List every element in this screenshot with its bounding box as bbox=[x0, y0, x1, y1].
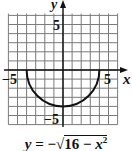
y-axis bbox=[60, 0, 66, 127]
x-tick-neg5: −5 bbox=[2, 72, 17, 87]
x-tick-5: 5 bbox=[104, 72, 111, 87]
equation-caption: y = −√16 − x2 bbox=[0, 129, 132, 151]
y-axis-arrow-icon bbox=[60, 0, 66, 8]
sqrt-icon: √ bbox=[56, 136, 64, 151]
x-axis-label: x bbox=[122, 71, 131, 87]
y-tick-neg5: −5 bbox=[44, 112, 59, 127]
graph: x y −5 5 5 −5 bbox=[0, 0, 132, 130]
caption-eq: = − bbox=[31, 136, 56, 151]
radicand-var: x bbox=[95, 136, 103, 151]
y-axis-label: y bbox=[49, 0, 58, 12]
caption-radicand: 16 − x2 bbox=[64, 135, 107, 151]
y-tick-5: 5 bbox=[53, 18, 60, 33]
radicand-number: 16 − bbox=[64, 136, 95, 151]
exponent: 2 bbox=[103, 135, 108, 145]
